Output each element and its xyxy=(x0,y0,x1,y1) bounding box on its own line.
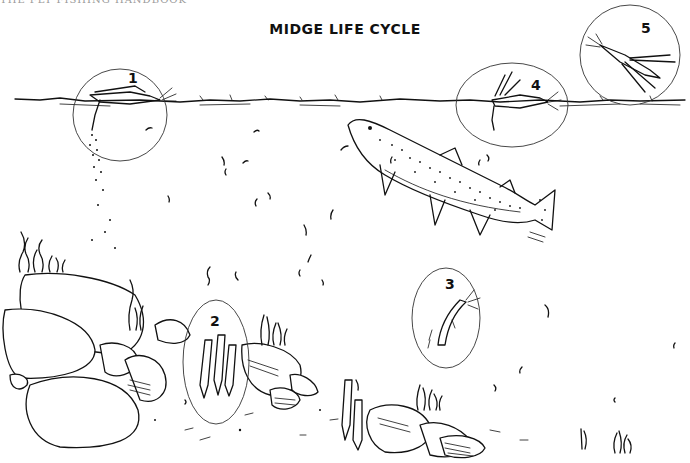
scene-drawing xyxy=(0,0,690,463)
rocks xyxy=(3,274,485,458)
stage-3-label: 3 xyxy=(445,276,455,292)
midge-life-cycle-illustration: THE FLY FISHING HANDBOOK MIDGE LIFE CYCL… xyxy=(0,0,690,463)
stage-1-label: 1 xyxy=(128,70,138,86)
stage-2-larvae xyxy=(200,335,236,398)
stage-4-label: 4 xyxy=(531,77,541,93)
stage-1-circle xyxy=(73,69,167,161)
bottom-larvae xyxy=(342,380,362,450)
drifting-larvae xyxy=(146,128,675,404)
water-surface xyxy=(15,95,685,106)
stage-circles xyxy=(73,5,680,424)
stage-3-pupa xyxy=(428,290,480,348)
trout xyxy=(348,120,555,242)
stage-1-adult-laying-eggs xyxy=(89,86,176,221)
stage-2-label: 2 xyxy=(210,313,220,329)
stage-5-label: 5 xyxy=(641,20,651,36)
stage-5-flying-adult xyxy=(586,34,675,92)
stage-4-circle xyxy=(456,63,568,147)
